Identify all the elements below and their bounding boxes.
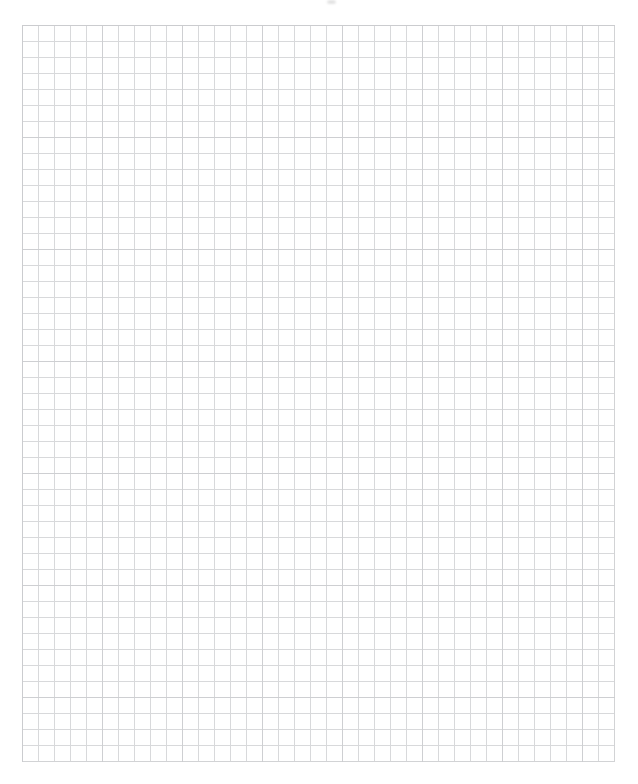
graph-paper-grid xyxy=(22,25,615,762)
scan-speck-artifact xyxy=(327,0,336,4)
scanned-page xyxy=(0,0,638,784)
